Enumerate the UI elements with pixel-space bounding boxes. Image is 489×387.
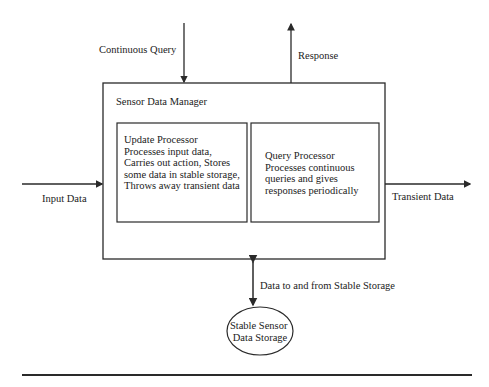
transient-data-label: Transient Data bbox=[392, 191, 454, 202]
input-data-label: Input Data bbox=[42, 193, 87, 204]
sensor-data-manager-diagram: Continuous Query Response Sensor Data Ma… bbox=[0, 0, 489, 387]
continuous-query-label: Continuous Query bbox=[99, 44, 177, 55]
manager-title: Sensor Data Manager bbox=[116, 96, 207, 107]
storage-text: Stable Sensor Data Storage bbox=[230, 320, 290, 343]
update-processor-text: Update Processor Processes input data, C… bbox=[124, 134, 242, 191]
stable-storage-link-label: Data to and from Stable Storage bbox=[260, 280, 395, 291]
query-processor-text: Query Processor Processes continuous que… bbox=[265, 150, 359, 196]
response-label: Response bbox=[298, 50, 339, 61]
